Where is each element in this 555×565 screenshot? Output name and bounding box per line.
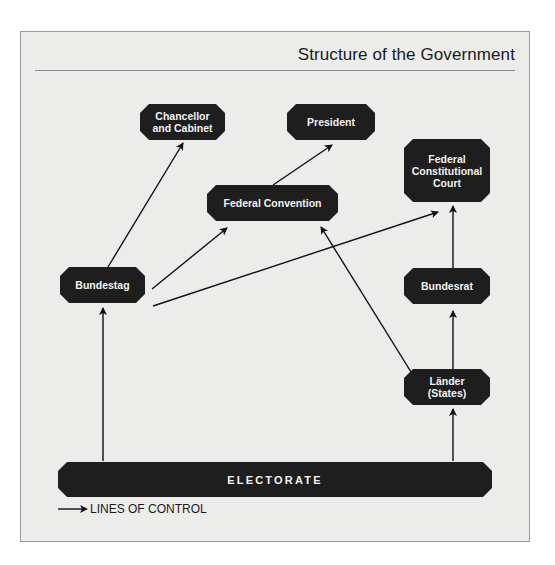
legend: LINES OF CONTROL	[58, 502, 207, 516]
edge-convention-president	[273, 145, 332, 185]
edge-bundestag-fcc	[153, 212, 438, 306]
node-federal-constitutional-court: Federal Constitutional Court	[404, 139, 490, 202]
node-bundesrat: Bundesrat	[404, 268, 490, 304]
node-label: Federal Convention	[223, 197, 321, 209]
edge-bundestag-convention	[152, 228, 227, 289]
node-bundestag: Bundestag	[60, 267, 145, 303]
node-federal-convention: Federal Convention	[207, 185, 338, 221]
node-label: ELECTORATE	[227, 474, 323, 486]
legend-label: LINES OF CONTROL	[90, 502, 207, 516]
node-label: Bundestag	[75, 279, 129, 291]
node-label: President	[307, 116, 355, 128]
arrow-icon	[58, 503, 88, 515]
edge-bundestag-chancellor	[108, 143, 183, 267]
edge-laender-convention	[321, 227, 416, 380]
node-label: Bundesrat	[421, 280, 473, 292]
node-electorate: ELECTORATE	[58, 462, 492, 497]
node-label: Länder (States)	[428, 375, 467, 399]
node-label: Chancellor and Cabinet	[152, 110, 212, 134]
node-laender: Länder (States)	[404, 369, 490, 405]
node-president: President	[287, 104, 375, 140]
node-label: Federal Constitutional Court	[412, 153, 483, 189]
node-chancellor-and-cabinet: Chancellor and Cabinet	[140, 104, 225, 140]
